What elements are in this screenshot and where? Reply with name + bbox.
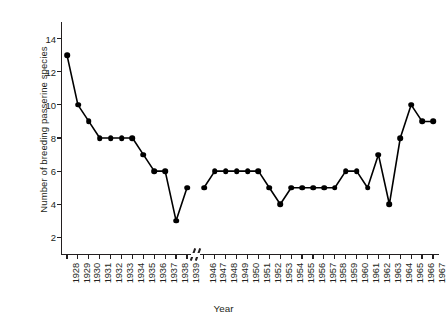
- y-tick-label: 6: [16, 166, 56, 177]
- x-tick-mark: [132, 254, 133, 259]
- data-point: [86, 119, 92, 125]
- data-point: [267, 185, 273, 191]
- x-tick-mark: [389, 254, 390, 259]
- data-point: [151, 168, 157, 174]
- x-tick-label: 1930: [92, 263, 102, 283]
- x-tick-label: 1951: [262, 263, 272, 283]
- x-tick-label: 1957: [328, 263, 338, 283]
- plot-area: 2468101214 19281929193019311932193319341…: [61, 22, 439, 254]
- x-tick-mark: [400, 254, 401, 259]
- x-tick-mark: [356, 254, 357, 259]
- x-tick-mark: [301, 254, 302, 259]
- x-tick-label: 1929: [82, 263, 92, 283]
- x-tick-label: 1963: [393, 263, 403, 283]
- x-tick-mark: [432, 254, 433, 259]
- x-tick-mark: [143, 254, 144, 259]
- series-segment-pre-break: [67, 55, 187, 221]
- data-point: [419, 119, 425, 125]
- y-tick-label: 8: [16, 133, 56, 144]
- data-point: [201, 185, 207, 191]
- data-point: [64, 52, 70, 58]
- x-tick-mark: [345, 254, 346, 259]
- data-point: [277, 201, 283, 207]
- x-tick-mark: [367, 254, 368, 259]
- x-tick-mark: [121, 254, 122, 259]
- x-tick-mark: [312, 254, 313, 259]
- x-tick-mark: [247, 254, 248, 259]
- x-tick-mark: [236, 254, 237, 259]
- data-point: [97, 135, 103, 141]
- x-tick-label: 1949: [240, 263, 250, 283]
- x-tick-mark: [258, 254, 259, 259]
- x-tick-mark: [77, 254, 78, 259]
- y-tick-label: 10: [16, 99, 56, 110]
- x-tick-label: 1933: [125, 263, 135, 283]
- x-tick-mark: [269, 254, 270, 259]
- data-point: [365, 185, 371, 191]
- x-tick-mark: [88, 254, 89, 259]
- data-point: [321, 185, 327, 191]
- x-tick-label: 1961: [371, 263, 381, 283]
- data-point: [162, 168, 168, 174]
- data-point: [108, 135, 114, 141]
- data-point: [223, 168, 229, 174]
- data-point: [119, 135, 125, 141]
- data-point: [387, 201, 393, 207]
- x-tick-label: 1938: [180, 263, 190, 283]
- x-tick-mark: [66, 254, 67, 259]
- x-tick-mark: [186, 254, 187, 259]
- y-tick-label: 14: [16, 33, 56, 44]
- x-tick-label: 1928: [71, 263, 81, 283]
- x-tick-label: 1965: [415, 263, 425, 283]
- x-tick-label: 1947: [218, 263, 228, 283]
- data-point: [245, 168, 251, 174]
- data-point: [130, 135, 136, 141]
- series-segment-post-break: [204, 105, 433, 204]
- line-chart-figure: Number of breeding passerine species 246…: [0, 0, 447, 323]
- data-point: [354, 168, 360, 174]
- x-axis-line: [61, 254, 439, 255]
- x-tick-label: 1964: [404, 263, 414, 283]
- x-tick-label: 1958: [338, 263, 348, 283]
- data-point: [397, 135, 403, 141]
- x-tick-label: 1960: [360, 263, 370, 283]
- x-tick-mark: [214, 254, 215, 259]
- x-tick-label: 1967: [437, 263, 447, 283]
- x-tick-mark: [154, 254, 155, 259]
- x-tick-label: 1954: [295, 263, 305, 283]
- x-tick-label: 1931: [103, 263, 113, 283]
- y-axis-title: Number of breeding passerine species: [38, 15, 49, 245]
- x-tick-label: 1934: [136, 263, 146, 283]
- data-point: [299, 185, 305, 191]
- x-tick-mark: [411, 254, 412, 259]
- x-tick-mark: [203, 254, 204, 259]
- x-tick-mark: [165, 254, 166, 259]
- y-tick-label: 12: [16, 66, 56, 77]
- x-tick-label: 1953: [284, 263, 294, 283]
- data-point: [234, 168, 240, 174]
- x-tick-label: 1966: [426, 263, 436, 283]
- x-tick-label: 1936: [158, 263, 168, 283]
- data-point: [256, 168, 262, 174]
- x-tick-mark: [291, 254, 292, 259]
- data-point: [173, 218, 179, 224]
- y-tick-label: 2: [16, 232, 56, 243]
- x-tick-mark: [421, 254, 422, 259]
- data-point: [332, 185, 338, 191]
- x-tick-label: 1952: [273, 263, 283, 283]
- x-tick-mark: [99, 254, 100, 259]
- x-tick-mark: [110, 254, 111, 259]
- x-tick-label: 1946: [208, 263, 218, 283]
- data-point: [75, 102, 81, 108]
- x-tick-mark: [323, 254, 324, 259]
- data-point: [184, 185, 190, 191]
- x-tick-label: 1935: [147, 263, 157, 283]
- data-point: [376, 152, 382, 158]
- x-tick-label: 1962: [382, 263, 392, 283]
- data-point: [288, 185, 294, 191]
- data-point: [141, 152, 147, 158]
- x-tick-mark: [175, 254, 176, 259]
- data-point: [343, 168, 349, 174]
- x-tick-mark: [334, 254, 335, 259]
- x-tick-mark: [225, 254, 226, 259]
